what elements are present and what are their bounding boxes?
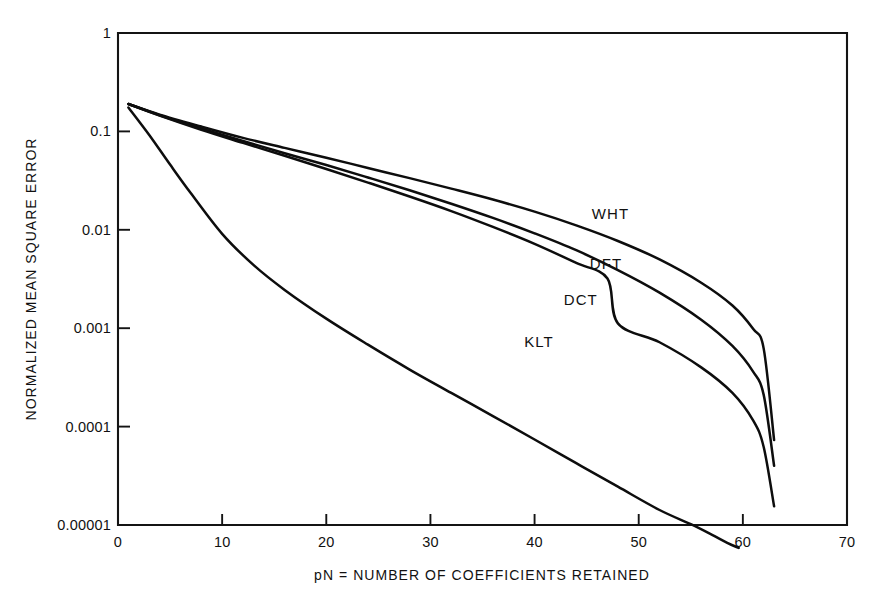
y-tick-label-0.0001: 0.0001	[65, 419, 111, 435]
curve-label-dct: DCT	[564, 291, 598, 308]
y-tick-label-1: 1	[103, 25, 111, 41]
x-tick-label-0: 0	[114, 534, 122, 550]
y-tick-label-0.01: 0.01	[82, 222, 111, 238]
curve-label-wht: WHT	[592, 205, 629, 222]
curve-label-klt: KLT	[524, 333, 554, 350]
x-tick-label-50: 50	[630, 534, 647, 550]
y-axis-title: NORMALIZED MEAN SQUARE ERROR	[23, 138, 39, 421]
curve-label-dft: DFT	[590, 255, 622, 272]
figure-container: 010203040506070 10.10.010.0010.00010.000…	[0, 0, 883, 605]
x-tick-label-70: 70	[839, 534, 856, 550]
chart-canvas: 010203040506070 10.10.010.0010.00010.000…	[0, 0, 883, 605]
x-tick-label-40: 40	[526, 534, 543, 550]
x-tick-label-20: 20	[318, 534, 335, 550]
y-tick-label-0.00001: 0.00001	[57, 517, 111, 533]
x-axis-title: pN = NUMBER OF COEFFICIENTS RETAINED	[314, 567, 650, 583]
x-tick-label-10: 10	[214, 534, 231, 550]
y-tick-label-0.1: 0.1	[90, 123, 111, 139]
y-tick-label-0.001: 0.001	[74, 320, 111, 336]
x-tick-label-30: 30	[422, 534, 439, 550]
chart-background	[0, 0, 883, 605]
